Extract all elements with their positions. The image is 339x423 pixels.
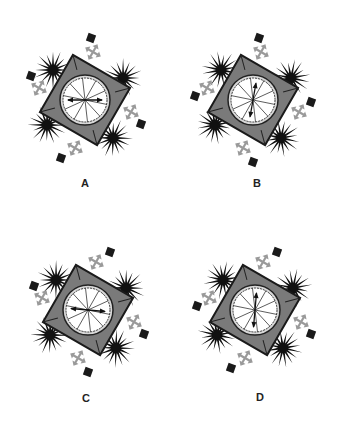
option-label: B	[253, 177, 261, 189]
square-marker-icon	[272, 247, 282, 257]
square-marker-icon	[26, 71, 36, 81]
square-marker-icon	[29, 281, 39, 291]
figure	[192, 247, 316, 373]
square-marker-icon	[248, 157, 258, 167]
four-way-arrow-icon	[233, 346, 258, 371]
four-way-arrow-icon	[66, 346, 91, 371]
square-marker-icon	[306, 97, 316, 107]
square-marker-icon	[105, 247, 115, 257]
four-way-arrow-icon	[63, 136, 88, 161]
square-marker-icon	[254, 33, 264, 43]
square-marker-icon	[83, 367, 93, 377]
four-way-arrow-icon	[231, 136, 256, 161]
figure	[190, 33, 316, 167]
option-label: C	[82, 392, 90, 404]
figure	[26, 33, 146, 163]
option-c[interactable]	[3, 210, 173, 410]
option-label: D	[256, 391, 264, 403]
square-marker-icon	[190, 91, 200, 101]
square-marker-icon	[86, 33, 96, 43]
option-d[interactable]	[170, 210, 339, 410]
figure	[29, 247, 149, 377]
square-marker-icon	[56, 153, 66, 163]
square-marker-icon	[139, 329, 149, 339]
square-marker-icon	[226, 363, 236, 373]
square-marker-icon	[136, 119, 146, 129]
square-marker-icon	[306, 329, 316, 339]
option-b[interactable]	[168, 0, 338, 200]
option-a[interactable]	[0, 0, 170, 200]
option-label: A	[81, 177, 89, 189]
square-marker-icon	[192, 301, 202, 311]
